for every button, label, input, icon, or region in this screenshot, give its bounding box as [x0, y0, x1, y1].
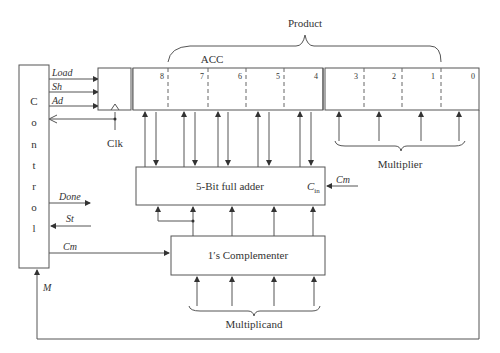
svg-text:C: C — [30, 95, 37, 107]
multiplier-bit-2: 2 — [392, 72, 396, 81]
svg-text:o: o — [31, 201, 37, 213]
register-control-block — [98, 68, 131, 110]
sh-label: Sh — [52, 81, 62, 92]
svg-text:r: r — [32, 180, 36, 192]
multiplier-bit-0: 0 — [471, 72, 475, 81]
acc-bit-4: 4 — [314, 72, 318, 81]
clk-label: Clk — [107, 137, 123, 149]
acc-bit-6: 6 — [238, 72, 242, 81]
multiplicand-input-arrows — [197, 277, 314, 306]
st-label: St — [66, 213, 74, 224]
acc-bit-8: 8 — [160, 72, 164, 81]
done-label: Done — [58, 191, 81, 202]
adder-label: 5-Bit full adder — [196, 180, 264, 192]
multiplicand-label: Multiplicand — [226, 318, 283, 330]
cm-carry-in-label: Cm — [336, 174, 350, 185]
ad-label: Ad — [51, 95, 64, 106]
complementer-label: 1′s Complementer — [208, 249, 289, 261]
acc-bit-5: 5 — [276, 72, 280, 81]
svg-text:o: o — [31, 116, 37, 128]
m-label: M — [42, 282, 52, 293]
multiplier-input-arrows — [339, 112, 459, 141]
svg-text:l: l — [32, 222, 35, 234]
multiplier-bit-1: 1 — [431, 72, 435, 81]
multiplier-block-diagram: Product ACC C o n t r o l Load Sh Ad Clk… — [0, 0, 500, 353]
acc-adder-bus-lines — [145, 112, 311, 167]
multiplicand-brace — [189, 306, 320, 316]
load-label: Load — [51, 67, 74, 78]
svg-text:t: t — [32, 159, 35, 171]
svg-text:n: n — [31, 138, 37, 150]
cm-label: Cm — [63, 241, 77, 252]
multiplier-label: Multiplier — [378, 158, 423, 170]
clk-junction-dot — [114, 118, 117, 121]
acc-label: ACC — [201, 53, 224, 65]
complementer-adder-bus-lines — [158, 207, 313, 236]
acc-bit-7: 7 — [200, 72, 204, 81]
multiplier-brace — [335, 141, 465, 151]
multiplier-bit-3: 3 — [354, 72, 358, 81]
product-label: Product — [288, 17, 322, 29]
